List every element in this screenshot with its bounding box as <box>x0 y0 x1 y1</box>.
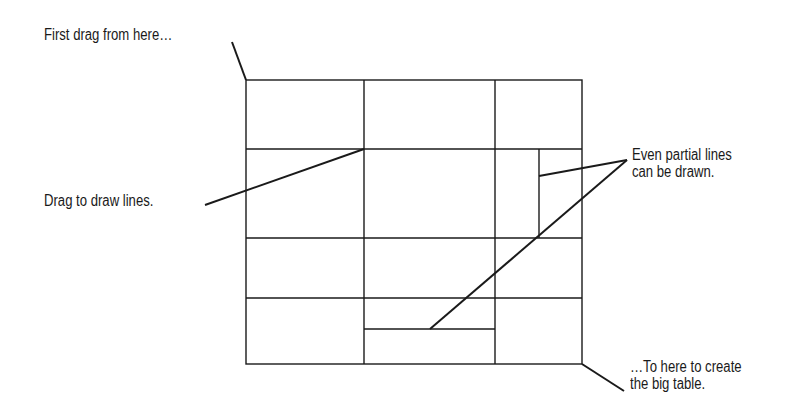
table-outer-border <box>246 80 582 364</box>
callout-leader-line <box>430 160 627 329</box>
callout-text: Drag to draw lines. <box>44 192 153 209</box>
callout-text-line-2: can be drawn. <box>632 163 732 180</box>
callout-text-line-1: Even partial lines <box>632 146 732 163</box>
callout-text-line-1: …To here to create <box>630 358 742 375</box>
callout-leader-line <box>205 149 364 205</box>
callout-first-drag: First drag from here… <box>44 26 172 43</box>
callout-leader-line <box>582 364 624 391</box>
callout-text-line-2: the big table. <box>630 375 742 392</box>
callout-end-drag: …To here to create the big table. <box>630 358 742 392</box>
callout-partial-lines: Even partial lines can be drawn. <box>632 146 732 180</box>
callout-text: First drag from here… <box>44 26 172 43</box>
callout-leader-line <box>539 160 627 176</box>
table-grid <box>246 80 582 364</box>
callout-drag-lines: Drag to draw lines. <box>44 192 153 209</box>
callout-leader-line <box>232 42 246 80</box>
callout-leaders <box>205 42 627 391</box>
